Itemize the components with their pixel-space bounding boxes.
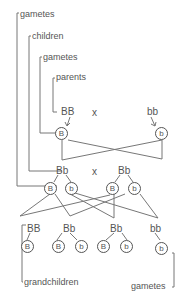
bracket-gametes-bottom xyxy=(172,253,174,287)
cross-symbol-children: x xyxy=(92,167,97,177)
parent-gamete-1: B xyxy=(55,127,68,140)
parent-cross-left xyxy=(62,140,162,160)
label-gametes-bottom: gametes xyxy=(131,282,166,291)
cross-symbol-parents: x xyxy=(92,108,97,118)
bracket-grandchildren xyxy=(22,225,26,282)
child-2-gamete-b: b xyxy=(128,182,141,195)
grandchild-2-gamete-b: b xyxy=(75,240,88,253)
grandchild-4-gamete-b: b xyxy=(155,242,168,255)
child-genotype-1: Bb xyxy=(56,166,68,176)
grandchild-genotype-2: Bb xyxy=(63,224,75,234)
grandchild-3-gamete-b: b xyxy=(120,240,133,253)
parent-gamete-2: b xyxy=(155,127,168,140)
bracket-gametes-mid xyxy=(40,57,58,133)
grandchild-1-gamete-B: B xyxy=(21,240,34,253)
label-gametes-mid: gametes xyxy=(43,53,78,62)
label-children: children xyxy=(32,32,64,41)
grandchild-2-gamete-B: B xyxy=(52,240,65,253)
label-parents: parents xyxy=(56,73,86,82)
label-grandchildren: grandchildren xyxy=(24,278,79,287)
label-gametes-top: gametes xyxy=(20,10,55,19)
grandchild-genotype-1: BB xyxy=(27,224,40,234)
bracket-parents xyxy=(53,78,57,112)
child-1-gamete-B: B xyxy=(44,182,57,195)
grandchild-genotype-4: bb xyxy=(150,224,161,234)
parent-genotype-1: BB xyxy=(61,107,74,117)
grandchild-3-gamete-B: B xyxy=(97,240,110,253)
parent-genotype-2: bb xyxy=(147,107,158,117)
grandchild-genotype-3: Bb xyxy=(110,224,122,234)
child-genotype-2: Bb xyxy=(118,166,130,176)
child-1-gamete-b: b xyxy=(65,182,78,195)
child-2-gamete-B: B xyxy=(106,182,119,195)
